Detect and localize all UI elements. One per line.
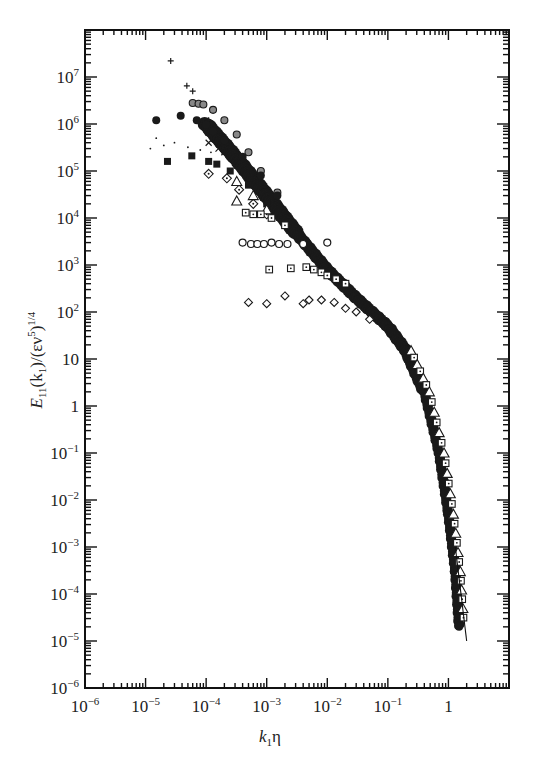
y-tick-label: 102 [57,301,80,322]
x-tick-label: 1 [444,697,453,716]
y-tick-label: 10−3 [50,536,79,557]
y-tick-label: 106 [57,113,80,134]
plot-border [85,30,509,688]
y-tick-label: 105 [57,160,80,181]
y-tick-label: 107 [57,66,80,87]
y-tick-label: 1 [71,397,80,416]
x-tick-label: 10−3 [252,695,281,716]
y-tick-label: 103 [57,254,80,275]
y-tick-label: 10−1 [50,442,79,463]
y-tick-label: 10−2 [50,489,79,510]
x-tick-label: 10−2 [313,695,342,716]
x-tick-label: 10−4 [192,695,221,716]
data-points [149,58,467,641]
plot-frame [85,30,509,688]
spectrum-chart: k1η E11(k1)/(εν5)1/4 10−610−510−410−310−… [0,0,534,771]
y-tick-label: 10−6 [50,677,79,698]
y-tick-label: 10−5 [50,630,79,651]
y-axis-title: E11(k1)/(εν5)1/4 [25,311,48,409]
y-tick-label: 10−4 [50,583,79,604]
x-tick-label: 10−6 [71,695,100,716]
x-axis-title: k1η [259,727,281,748]
y-tick-label: 10 [62,350,79,369]
x-tick-label: 10−5 [131,695,160,716]
x-tick-label: 10−1 [373,695,402,716]
y-tick-label: 104 [57,207,80,228]
